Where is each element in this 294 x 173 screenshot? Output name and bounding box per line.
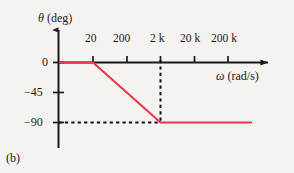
y-tick-label-0: 0 [42,56,48,68]
y-axis-title: θ (deg) [38,12,72,24]
x-tick-label-200: 200 [113,33,130,45]
x-axis-title-unit: (rad/s) [227,69,258,83]
y-tick-label-minus90: −90 [24,116,43,128]
y-axis-title-unit: (deg) [47,11,72,25]
x-tick-label-200k: 200 k [211,33,237,45]
y-tick-label-minus45: −45 [24,86,43,98]
plot-canvas [0,0,294,173]
phase-bode-plot-figure: 20 200 2 k 20 k 200 k 0 −45 −90 θ (deg) … [0,0,294,173]
x-tick-label-20: 20 [85,33,97,45]
x-tick-label-20k: 20 k [180,33,200,45]
panel-label: (b) [6,152,20,164]
x-tick-label-2k: 2 k [150,33,164,45]
x-axis-title: ω (rad/s) [216,70,259,82]
